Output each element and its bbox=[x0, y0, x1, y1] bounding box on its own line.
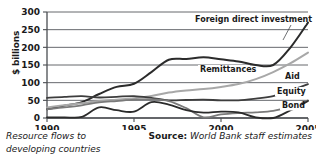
series-label-bond: Bond bbox=[282, 101, 305, 110]
figure-caption: Resource flows to developing countries bbox=[6, 130, 146, 156]
y-tick-label: 50 bbox=[27, 96, 40, 106]
y-tick-label: 150 bbox=[21, 60, 40, 70]
chart-figure: $ billions 050100150200250300 1990199520… bbox=[0, 0, 316, 162]
y-tick-label: 100 bbox=[21, 78, 40, 88]
figure-source: Source: World Bank staff estimates bbox=[149, 131, 312, 141]
y-tick-label: 200 bbox=[21, 43, 40, 53]
caption-line-1: Resource flows to bbox=[6, 131, 86, 141]
series-label-aid: Aid bbox=[285, 72, 300, 81]
y-tick-label: 0 bbox=[34, 113, 40, 123]
series-line-remittances bbox=[47, 53, 308, 108]
line-chart: 050100150200250300 1990199520002005 Fore… bbox=[0, 0, 316, 130]
y-tick-labels: 050100150200250300 bbox=[21, 7, 40, 123]
series-label-foreign-direct-investment-leader bbox=[283, 25, 291, 40]
source-label: Source: bbox=[149, 131, 188, 141]
caption-line-2: developing countries bbox=[6, 144, 100, 154]
data-series bbox=[47, 23, 308, 119]
y-tick-label: 300 bbox=[21, 7, 40, 17]
y-tick-label: 250 bbox=[21, 25, 40, 35]
figure-footer: Resource flows to developing countries S… bbox=[0, 128, 316, 162]
series-label-foreign-direct-investment: Foreign direct investment bbox=[195, 15, 312, 24]
series-label-remittances: Remittances bbox=[200, 65, 257, 74]
source-value: World Bank staff estimates bbox=[190, 131, 312, 141]
series-label-equity: Equity bbox=[277, 87, 306, 96]
